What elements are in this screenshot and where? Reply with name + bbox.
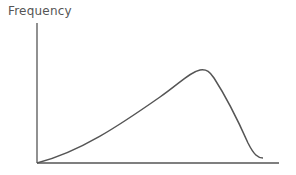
chart-plot [0, 0, 296, 175]
distribution-curve [37, 70, 263, 163]
